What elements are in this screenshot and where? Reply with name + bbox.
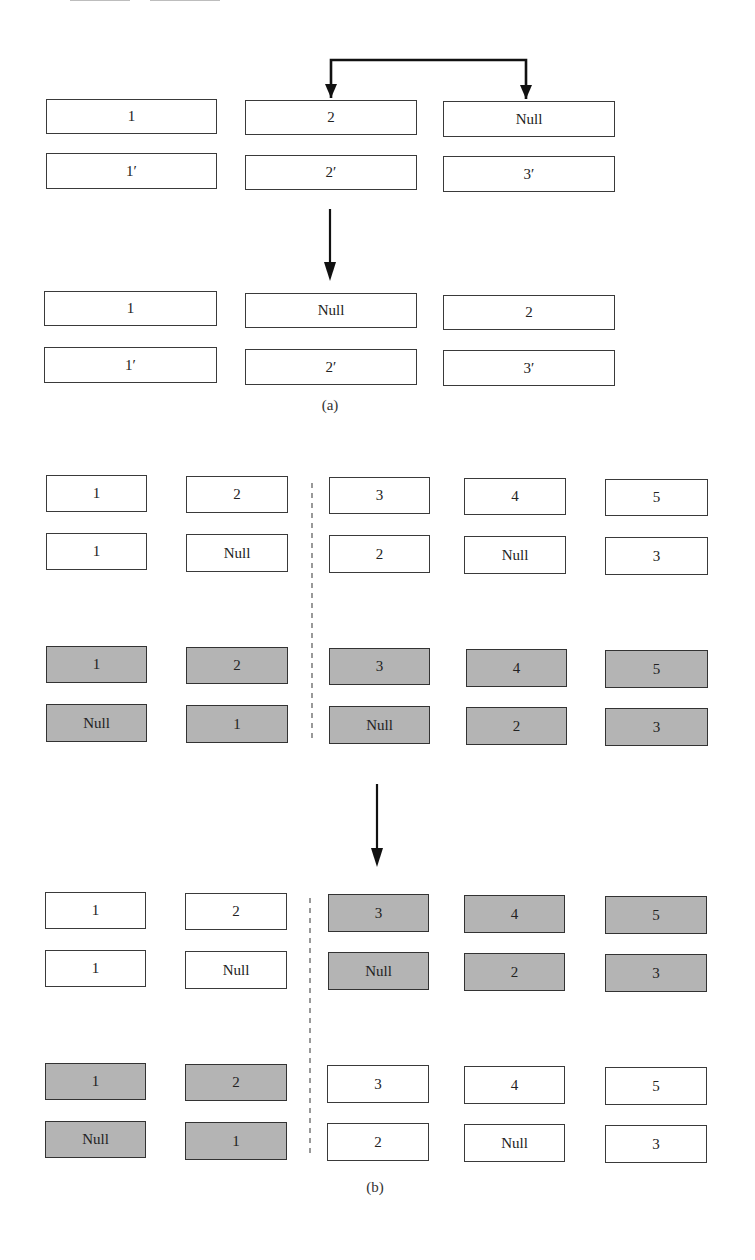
- swap-arrow-icon: [325, 60, 532, 99]
- down-arrow-icon: [371, 784, 383, 867]
- down-arrow-icon: [324, 209, 336, 281]
- diagram-canvas: 1 2 Null 1′ 2′ 3′ 1 Null 2 1′ 2′ 3′ (a) …: [0, 0, 755, 1260]
- connectors-layer: [0, 0, 755, 1260]
